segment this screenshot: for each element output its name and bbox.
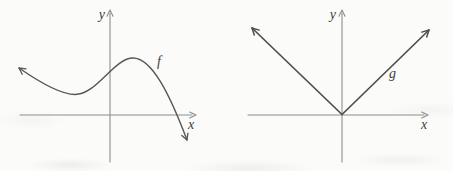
g-curve <box>252 28 429 115</box>
graph-f: y x f <box>0 0 226 171</box>
scanned-math-figure: y x f y x g <box>0 0 453 171</box>
g-curve-label: g <box>389 66 396 81</box>
f-curve-label: f <box>157 54 163 69</box>
g-y-axis-label: y <box>328 7 337 22</box>
f-y-axis-label: y <box>97 7 106 22</box>
f-curve <box>19 58 187 140</box>
f-x-axis-label: x <box>187 117 195 132</box>
graph-g: y x g <box>226 0 453 171</box>
g-x-axis-label: x <box>420 117 428 132</box>
